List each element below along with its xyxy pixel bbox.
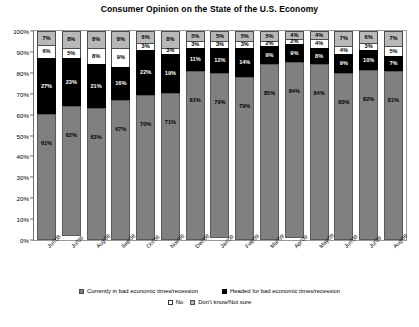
segment-dontknow[interactable]: 8% <box>111 31 130 48</box>
segment-headed[interactable]: 14% <box>235 48 254 77</box>
segment-value-label: 6% <box>365 35 373 41</box>
segment-no[interactable]: 6% <box>37 45 56 57</box>
segment-dontknow[interactable]: 5% <box>260 31 279 41</box>
segment-currently[interactable]: 84% <box>285 62 304 238</box>
segment-no[interactable]: 5% <box>384 46 403 56</box>
bar-column[interactable]: 6%3%10%82% <box>359 31 378 240</box>
segment-value-label: 12% <box>214 58 225 64</box>
legend-swatch-icon-currently <box>79 289 84 294</box>
legend-row-primary: Currently in bad economic times/recessio… <box>0 288 419 294</box>
segment-value-label: 79% <box>214 100 225 106</box>
y-axis-tick-label: 80% <box>17 69 29 76</box>
bar-column[interactable]: 8%3%19%71% <box>161 31 180 240</box>
bar-column[interactable]: 8%9%16%67% <box>111 31 130 240</box>
segment-no[interactable]: 4% <box>334 46 353 54</box>
segment-no[interactable]: 9% <box>111 48 130 67</box>
segment-headed[interactable]: 22% <box>136 50 155 96</box>
bar-column[interactable]: 5%3%11%81% <box>186 31 205 240</box>
bar-column[interactable]: 7%4%9%80% <box>334 31 353 240</box>
segment-dontknow[interactable]: 7% <box>384 31 403 46</box>
y-axis-tick-label: 20% <box>17 195 29 202</box>
x-axis-tick: Jun'09 <box>334 243 353 285</box>
legend-item-no[interactable]: No <box>168 299 184 305</box>
segment-headed[interactable]: 16% <box>111 67 130 100</box>
segment-dontknow[interactable]: 4% <box>285 31 304 39</box>
segment-no[interactable]: 4% <box>310 39 329 47</box>
segment-value-label: 21% <box>90 84 101 90</box>
segment-headed[interactable]: 21% <box>87 64 106 108</box>
segment-dontknow[interactable]: 6% <box>359 31 378 43</box>
y-axis-tick-label: 30% <box>17 174 29 181</box>
segment-headed[interactable]: 10% <box>359 50 378 71</box>
segment-dontknow[interactable]: 7% <box>334 31 353 46</box>
segment-headed[interactable]: 12% <box>210 48 229 73</box>
segment-headed[interactable]: 9% <box>334 54 353 73</box>
legend-item-headed[interactable]: Headed for bad economic times/recession <box>222 288 340 294</box>
segment-dontknow[interactable]: 6% <box>136 31 155 43</box>
segment-headed[interactable]: 8% <box>310 48 329 65</box>
segment-currently[interactable]: 61% <box>37 114 56 240</box>
segment-headed[interactable]: 9% <box>285 44 304 63</box>
segment-headed[interactable]: 27% <box>37 58 56 114</box>
segment-dontknow[interactable]: 8% <box>62 31 81 48</box>
segment-value-label: 22% <box>140 70 151 76</box>
segment-currently[interactable]: 71% <box>161 93 180 240</box>
legend-item-dontknow[interactable]: Don't know/Not sure <box>190 299 251 305</box>
x-axis-tick: Dec'08 <box>186 243 205 285</box>
bar-column[interactable]: 4%2%9%84% <box>285 31 304 240</box>
bar-column[interactable]: 8%8%21%63% <box>87 31 106 240</box>
segment-value-label: 5% <box>216 34 224 40</box>
segment-currently[interactable]: 81% <box>384 71 403 240</box>
legend-swatch-icon-dontknow <box>190 300 195 305</box>
segment-value-label: 9% <box>265 53 273 59</box>
segment-dontknow[interactable]: 7% <box>37 31 56 45</box>
segment-dontknow[interactable]: 8% <box>161 31 180 48</box>
bar-column[interactable]: 5%3%14%79% <box>235 31 254 240</box>
segment-dontknow[interactable]: 5% <box>210 31 229 41</box>
segment-currently[interactable]: 63% <box>87 108 106 240</box>
legend-label-headed: Headed for bad economic times/recession <box>230 288 340 294</box>
x-axis-tick: Jan'09 <box>210 243 229 285</box>
segment-value-label: 81% <box>190 98 201 104</box>
segment-value-label: 5% <box>67 51 75 57</box>
segment-currently[interactable]: 81% <box>186 71 205 240</box>
segment-currently[interactable]: 84% <box>310 64 329 240</box>
segment-currently[interactable]: 62% <box>62 106 81 236</box>
segment-dontknow[interactable]: 8% <box>87 31 106 48</box>
segment-no[interactable]: 5% <box>62 48 81 58</box>
bar-column[interactable]: 8%5%23%62% <box>62 31 81 240</box>
segment-currently[interactable]: 79% <box>235 77 254 240</box>
segment-currently[interactable]: 80% <box>334 73 353 240</box>
bar-column[interactable]: 7%6%27%61% <box>37 31 56 240</box>
segment-currently[interactable]: 82% <box>359 70 378 240</box>
segment-value-label: 8% <box>92 54 100 60</box>
segment-currently[interactable]: 67% <box>111 100 130 240</box>
segment-headed[interactable]: 7% <box>384 56 403 71</box>
legend-label-currently: Currently in bad economic times/recessio… <box>87 288 198 294</box>
segment-dontknow[interactable]: 4% <box>310 31 329 39</box>
segment-no[interactable]: 8% <box>87 48 106 65</box>
segment-value-label: 79% <box>239 104 250 110</box>
segment-value-label: 4% <box>340 48 348 54</box>
bar-column[interactable]: 5%2%9%85% <box>260 31 279 240</box>
segment-dontknow[interactable]: 5% <box>186 31 205 41</box>
bar-column[interactable]: 7%5%7%81% <box>384 31 403 240</box>
segment-headed[interactable]: 9% <box>260 46 279 65</box>
segment-headed[interactable]: 23% <box>62 58 81 106</box>
segment-headed[interactable]: 11% <box>186 48 205 71</box>
y-axis-tick-label: 100% <box>13 28 29 35</box>
y-axis-tick-label: 10% <box>17 216 29 223</box>
y-axis-tick-label: 90% <box>17 48 29 55</box>
segment-dontknow[interactable]: 5% <box>235 31 254 41</box>
segment-value-label: 80% <box>338 100 349 106</box>
bar-column[interactable]: 4%4%8%84% <box>310 31 329 240</box>
segment-value-label: 19% <box>165 71 176 77</box>
segment-currently[interactable]: 85% <box>260 64 279 240</box>
segment-currently[interactable]: 79% <box>210 73 229 238</box>
segment-value-label: 14% <box>239 60 250 66</box>
bar-column[interactable]: 5%3%12%79% <box>210 31 229 240</box>
bar-column[interactable]: 6%3%22%70% <box>136 31 155 240</box>
legend-item-currently[interactable]: Currently in bad economic times/recessio… <box>79 288 198 294</box>
segment-headed[interactable]: 19% <box>161 54 180 93</box>
segment-currently[interactable]: 70% <box>136 95 155 240</box>
